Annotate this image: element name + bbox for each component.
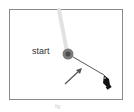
path-drawing [0, 0, 134, 112]
path-segment [68, 54, 104, 75]
start-label: start [32, 46, 50, 56]
figure-caption: fig [55, 103, 60, 109]
faint-trail-line [59, 10, 67, 52]
start-anchor-center [66, 52, 71, 57]
direction-arrow-icon [65, 68, 82, 84]
pen-tool-cursor-icon [103, 75, 112, 90]
